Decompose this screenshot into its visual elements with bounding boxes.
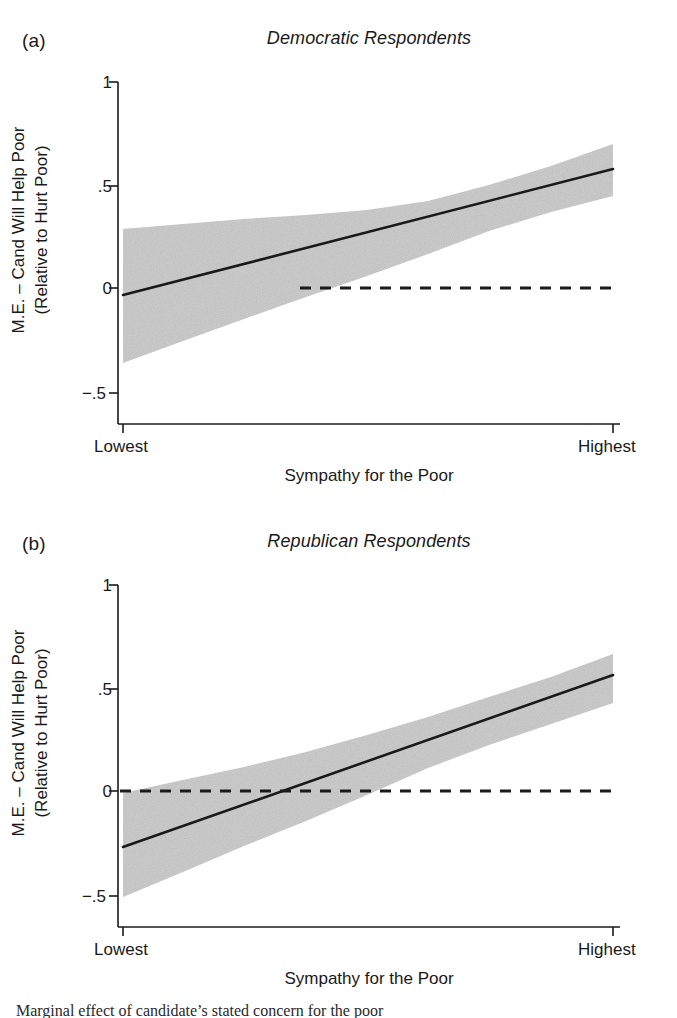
figure-caption: Marginal effect of candidate’s stated co…: [16, 1002, 661, 1018]
panel-b-estimate-line: [123, 675, 613, 847]
panel-a-xtick-label-lowest: Lowest: [94, 437, 148, 457]
panel-a-democratic-respondents: (a) Democratic Respondents M.E. – Cand W…: [0, 0, 677, 490]
panel-b-confidence-band: [123, 654, 613, 897]
panel-b-republican-respondents: (b) Republican Respondents M.E. – Cand W…: [0, 503, 677, 993]
panel-b-plot-area: [0, 503, 677, 993]
panel-a-plot-area: [0, 0, 677, 490]
panel-a-xlabel: Sympathy for the Poor: [118, 466, 620, 486]
panel-b-xlabel: Sympathy for the Poor: [118, 969, 620, 989]
panel-a-confidence-band: [123, 144, 613, 363]
figure-two-panel-marginal-effects: (a) Democratic Respondents M.E. – Cand W…: [0, 0, 677, 1018]
panel-b-xtick-label-highest: Highest: [578, 940, 636, 960]
panel-a-xtick-label-highest: Highest: [578, 437, 636, 457]
panel-b-xtick-label-lowest: Lowest: [94, 940, 148, 960]
